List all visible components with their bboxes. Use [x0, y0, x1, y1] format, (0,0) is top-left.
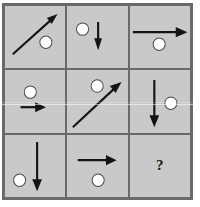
cell-2-figure [67, 6, 127, 68]
cell-7-figure [5, 135, 65, 197]
cell-3-figure [130, 6, 190, 68]
cell-1-figure [5, 6, 65, 68]
circle-marker [14, 174, 26, 186]
arrow-down-head [32, 179, 42, 191]
circle-marker [91, 80, 103, 92]
matrix-cell-6[interactable] [130, 70, 190, 132]
arrow-right-head [106, 155, 117, 165]
matrix-cell-1[interactable] [5, 6, 65, 68]
puzzle-frame: ? [2, 3, 193, 200]
arrow-down-head [149, 116, 159, 128]
cell-4-figure [5, 70, 65, 132]
arrow-right-head [175, 27, 187, 37]
matrix-cell-8[interactable] [67, 135, 127, 197]
circle-marker [153, 38, 165, 50]
matrix-cell-4[interactable] [5, 70, 65, 132]
matrix-cell-7[interactable] [5, 135, 65, 197]
cell-6-figure [130, 70, 190, 132]
arrow-down-head [95, 38, 103, 50]
circle-marker [164, 97, 176, 109]
circle-marker [92, 174, 104, 186]
circle-marker [24, 86, 36, 98]
matrix-grid: ? [5, 6, 190, 197]
matrix-cell-2[interactable] [67, 6, 127, 68]
circle-marker [77, 23, 89, 35]
matrix-cell-5[interactable] [67, 70, 127, 132]
arrow-up-right-shaft [73, 89, 114, 127]
matrix-cell-3[interactable] [130, 6, 190, 68]
matrix-cell-9-answer[interactable]: ? [130, 135, 190, 197]
arrow-right-head [35, 102, 46, 112]
question-mark-label: ? [130, 135, 190, 197]
cell-5-figure [67, 70, 127, 132]
circle-marker [40, 36, 52, 48]
cell-8-figure [67, 135, 127, 197]
